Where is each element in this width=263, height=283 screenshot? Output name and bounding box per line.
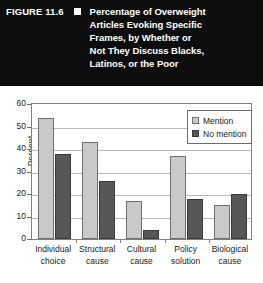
bar-no-mention xyxy=(55,154,71,240)
x-axis-tick-label-line: Biological xyxy=(199,244,261,256)
figure-title-line: Percentage of Overweight xyxy=(90,5,206,18)
bar-group xyxy=(126,104,159,239)
legend-label-mention: Mention xyxy=(203,116,233,126)
bar-no-mention xyxy=(99,181,115,240)
chart-legend: Mention No mention xyxy=(187,110,252,144)
bar-no-mention xyxy=(143,230,159,239)
bar-no-mention xyxy=(187,199,203,240)
bar-mention xyxy=(126,201,142,239)
category-separator-tick xyxy=(165,239,166,243)
y-axis-tick-label: 50 xyxy=(6,122,26,131)
legend-item-no-mention: No mention xyxy=(192,127,246,140)
figure-title-line: Latinos, or the Poor xyxy=(90,57,206,70)
category-separator-tick xyxy=(209,239,210,243)
category-separator-tick xyxy=(120,239,121,243)
figure-banner: FIGURE 11.6 Percentage of Overweight Art… xyxy=(0,0,263,86)
x-axis-tick-label: Biologicalcause xyxy=(199,244,261,267)
bar-group xyxy=(38,104,71,239)
legend-item-mention: Mention xyxy=(192,114,246,127)
y-axis-tick-label: 20 xyxy=(6,189,26,198)
bar-mention xyxy=(170,156,186,239)
legend-swatch-mention-icon xyxy=(192,117,199,124)
bar-mention xyxy=(38,118,54,240)
bar-chart: Percent 0102030405060 Mention No mention… xyxy=(0,86,263,283)
white-square-bullet-icon xyxy=(74,8,81,15)
y-axis-tick-label: 0 xyxy=(6,234,26,243)
figure-title: Percentage of Overweight Articles Evokin… xyxy=(90,5,206,70)
y-axis-tick-label: 30 xyxy=(6,167,26,176)
figure-title-line: Frames, by Whether or xyxy=(90,31,206,44)
plot-area: Mention No mention xyxy=(31,103,252,240)
figure-title-line: Articles Evoking Specific xyxy=(90,18,206,31)
y-axis-tick-label: 10 xyxy=(6,212,26,221)
figure-number: FIGURE 11.6 xyxy=(6,5,64,17)
bar-group xyxy=(82,104,115,239)
legend-swatch-no-mention-icon xyxy=(192,130,199,137)
legend-label-no-mention: No mention xyxy=(203,129,246,139)
bar-mention xyxy=(82,142,98,239)
bar-mention xyxy=(214,205,230,239)
figure-title-line: Not They Discuss Blacks, xyxy=(90,44,206,57)
x-axis-tick-label-line: cause xyxy=(199,256,261,268)
bar-no-mention xyxy=(231,194,247,239)
category-separator-tick xyxy=(76,239,77,243)
y-axis-tick-label: 60 xyxy=(6,99,26,108)
y-axis-tick-label: 40 xyxy=(6,144,26,153)
